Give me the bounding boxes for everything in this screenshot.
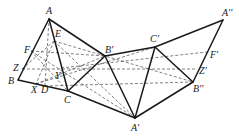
dashed-line-E-B2 [54, 41, 193, 82]
label-E: E [54, 28, 61, 39]
label-Z1: Z' [199, 65, 208, 76]
label-B2: B'' [193, 83, 204, 94]
edge-C1-A2 [155, 20, 223, 47]
edge-A2-B2 [193, 20, 223, 82]
label-Z: Z [13, 62, 19, 73]
edge-C-B1 [68, 56, 105, 91]
label-D: D [40, 84, 49, 95]
triangle-edges [18, 19, 223, 118]
label-F1: F' [209, 49, 219, 60]
label-A1: A' [130, 122, 140, 133]
edge-A-B [18, 19, 49, 80]
label-X: X [30, 84, 38, 95]
label-Y: Y [55, 70, 62, 81]
label-B1: B' [105, 44, 114, 55]
label-A2: A'' [221, 7, 233, 18]
label-F: F [23, 44, 31, 55]
edge-C-A1 [68, 91, 135, 118]
reflected-triangles-diagram: ABCEFZXDYB'A'C'B''A''F'Z' [0, 0, 239, 140]
label-C1: C' [150, 33, 160, 44]
vertex-labels: ABCEFZXDYB'A'C'B''A''F'Z' [8, 5, 233, 133]
label-C: C [64, 94, 71, 105]
label-A: A [45, 5, 53, 16]
label-B: B [8, 75, 14, 86]
